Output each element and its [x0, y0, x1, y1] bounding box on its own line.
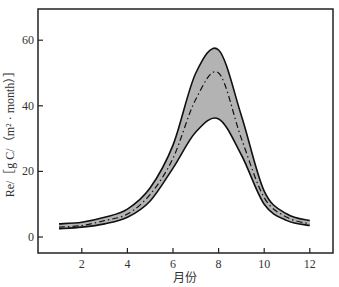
- y-tick-label: 60: [22, 33, 34, 47]
- x-tick-label: 6: [170, 257, 176, 271]
- y-tick-label: 20: [22, 164, 34, 178]
- uncertainty-band: [59, 48, 310, 229]
- x-tick-label: 10: [258, 257, 270, 271]
- y-axis-label: Re/［g C/（m² · month）］: [3, 65, 17, 198]
- x-tick-label: 4: [124, 257, 130, 271]
- respiration-chart: 020406024681012月份Re/［g C/（m² · month）］: [0, 0, 339, 287]
- x-tick-label: 8: [216, 257, 222, 271]
- y-tick-label: 0: [28, 230, 34, 244]
- x-tick-label: 2: [79, 257, 85, 271]
- x-tick-label: 12: [304, 257, 316, 271]
- y-tick-label: 40: [22, 99, 34, 113]
- x-axis-label: 月份: [173, 271, 197, 285]
